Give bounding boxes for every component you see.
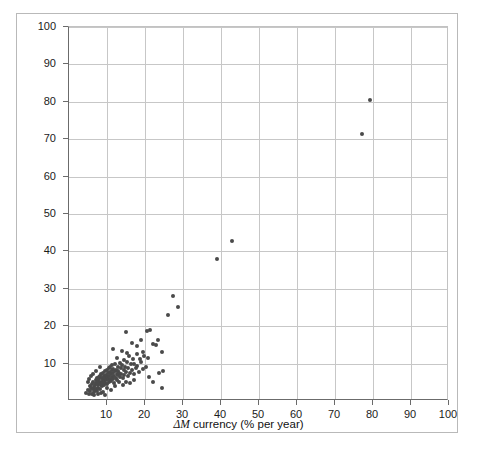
gridline-vertical bbox=[335, 27, 336, 399]
scatter-point bbox=[176, 305, 180, 309]
y-axis-tick-label: 100 bbox=[16, 21, 56, 32]
scatter-point bbox=[135, 352, 139, 356]
gridline-vertical bbox=[411, 27, 412, 399]
scatter-point bbox=[166, 313, 170, 317]
x-axis-tick bbox=[372, 400, 373, 405]
gridline-vertical bbox=[221, 27, 222, 399]
gridline-vertical bbox=[297, 27, 298, 399]
y-axis-tick-label: 80 bbox=[16, 96, 56, 107]
scatter-point bbox=[137, 370, 141, 374]
scatter-point bbox=[147, 375, 151, 379]
scatter-point bbox=[124, 330, 128, 334]
scatter-point bbox=[156, 338, 160, 342]
y-axis-tick bbox=[63, 213, 68, 214]
y-axis-tick bbox=[63, 101, 68, 102]
scatter-point bbox=[151, 380, 155, 384]
y-axis-tick bbox=[63, 325, 68, 326]
x-axis-tick bbox=[144, 400, 145, 405]
y-axis-tick-label: 60 bbox=[16, 171, 56, 182]
y-axis-tick-label: 30 bbox=[16, 283, 56, 294]
gridline-vertical bbox=[259, 27, 260, 399]
scatter-point bbox=[128, 381, 132, 385]
scatter-point bbox=[360, 132, 364, 136]
scatter-point bbox=[160, 386, 164, 390]
x-axis-tick bbox=[220, 400, 221, 405]
y-axis-tick bbox=[63, 138, 68, 139]
x-axis-title: ΔM currency (% per year) bbox=[0, 418, 477, 430]
scatter-point bbox=[131, 357, 135, 361]
y-axis-tick bbox=[63, 63, 68, 64]
scatter-point bbox=[98, 365, 102, 369]
gridline-horizontal bbox=[69, 139, 447, 140]
scatter-point bbox=[230, 239, 234, 243]
gridline-vertical bbox=[373, 27, 374, 399]
scatter-point bbox=[154, 343, 158, 347]
x-axis-tick bbox=[410, 400, 411, 405]
scatter-point bbox=[111, 347, 115, 351]
gridline-horizontal bbox=[69, 102, 447, 103]
gridline-vertical bbox=[145, 27, 146, 399]
x-axis-tick bbox=[448, 400, 449, 405]
x-axis-units: currency (% per year) bbox=[190, 418, 304, 430]
gridline-horizontal bbox=[69, 177, 447, 178]
scatter-point bbox=[171, 294, 175, 298]
y-axis-tick bbox=[63, 363, 68, 364]
scatter-point bbox=[109, 388, 113, 392]
y-axis-tick bbox=[63, 250, 68, 251]
figure-container: 1020304050607080901001020304050607080901… bbox=[0, 0, 477, 469]
scatter-point bbox=[103, 393, 107, 397]
scatter-point bbox=[132, 378, 136, 382]
gridline-horizontal bbox=[69, 64, 447, 65]
y-axis-tick-label: 10 bbox=[16, 358, 56, 369]
x-axis-tick bbox=[296, 400, 297, 405]
y-axis-tick-label: 90 bbox=[16, 58, 56, 69]
y-axis-tick-label: 50 bbox=[16, 208, 56, 219]
x-axis-tick bbox=[182, 400, 183, 405]
y-axis-tick bbox=[63, 176, 68, 177]
x-axis-tick bbox=[106, 400, 107, 405]
scatter-point bbox=[135, 344, 139, 348]
scatter-point bbox=[139, 338, 143, 342]
gridline-horizontal bbox=[69, 326, 447, 327]
y-axis-tick-label: 20 bbox=[16, 320, 56, 331]
scatter-point bbox=[160, 350, 164, 354]
scatter-point bbox=[146, 356, 150, 360]
scatter-point bbox=[132, 372, 136, 376]
scatter-point bbox=[148, 328, 152, 332]
scatter-point bbox=[89, 374, 93, 378]
scatter-point bbox=[86, 380, 90, 384]
y-axis-tick-label: 70 bbox=[16, 133, 56, 144]
gridline-horizontal bbox=[69, 27, 447, 28]
gridline-vertical bbox=[107, 27, 108, 399]
plot-area bbox=[68, 26, 448, 400]
gridline-horizontal bbox=[69, 289, 447, 290]
scatter-point bbox=[94, 369, 98, 373]
x-axis-tick bbox=[334, 400, 335, 405]
y-axis-tick bbox=[63, 288, 68, 289]
scatter-point bbox=[161, 369, 165, 373]
y-axis-tick bbox=[63, 26, 68, 27]
scatter-point bbox=[215, 257, 219, 261]
scatter-point bbox=[115, 356, 119, 360]
gridline-horizontal bbox=[69, 251, 447, 252]
x-axis-tick bbox=[258, 400, 259, 405]
gridline-vertical bbox=[183, 27, 184, 399]
scatter-point bbox=[135, 364, 139, 368]
scatter-point bbox=[120, 349, 124, 353]
gridline-horizontal bbox=[69, 214, 447, 215]
scatter-point bbox=[113, 384, 117, 388]
scatter-point bbox=[144, 365, 148, 369]
y-axis-tick-label: 40 bbox=[16, 245, 56, 256]
x-axis-symbol: ΔM bbox=[173, 418, 189, 430]
scatter-point bbox=[368, 98, 372, 102]
scatter-point bbox=[130, 341, 134, 345]
